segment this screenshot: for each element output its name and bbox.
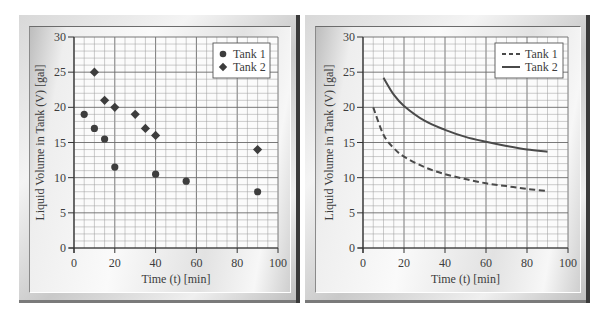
legend: Tank 1Tank 2 [213,43,270,78]
x-axis-title: Time (t) [min] [431,272,500,286]
legend-label: Tank 1 [233,47,266,61]
data-point-circle [183,178,190,185]
y-tick-label: 5 [349,206,355,220]
y-tick-label: 15 [343,136,355,150]
x-tick-label: 20 [398,256,410,270]
legend: Tank 1Tank 2 [495,43,563,78]
y-tick-label: 30 [54,30,66,44]
line-chart: 020406080100051015202530Time (t) [min]Li… [322,30,577,286]
x-tick-label: 40 [150,256,162,270]
x-tick-label: 0 [71,256,77,270]
y-tick-label: 20 [343,100,355,114]
y-tick-label: 0 [349,241,355,255]
y-tick-label: 25 [54,65,66,79]
legend-marker-circle-icon [220,51,227,58]
y-tick-label: 10 [343,171,355,185]
x-tick-label: 80 [231,256,243,270]
scatter-chart: 020406080100051015202530Time (t) [min]Li… [33,30,287,286]
x-tick-label: 20 [109,256,121,270]
x-tick-label: 80 [521,256,533,270]
y-tick-label: 10 [54,171,66,185]
x-tick-label: 0 [360,256,366,270]
y-axis-title: Liquid Volume in Tank (V) [gal] [322,64,336,220]
y-tick-label: 25 [343,65,355,79]
data-point-circle [111,164,118,171]
data-point-circle [91,125,98,132]
legend-label: Tank 1 [525,47,558,61]
legend-label: Tank 2 [233,60,266,74]
y-tick-label: 5 [60,206,66,220]
y-axis-title: Liquid Volume in Tank (V) [gal] [33,64,47,220]
x-tick-label: 40 [439,256,451,270]
x-tick-label: 100 [269,256,287,270]
y-tick-label: 30 [343,30,355,44]
legend-label: Tank 2 [525,60,558,74]
x-tick-label: 100 [559,256,577,270]
x-tick-label: 60 [480,256,492,270]
data-point-circle [152,171,159,178]
y-tick-label: 20 [54,100,66,114]
y-tick-label: 0 [60,241,66,255]
y-tick-label: 15 [54,136,66,150]
data-point-circle [101,135,108,142]
x-axis-title: Time (t) [min] [142,272,211,286]
data-point-circle [254,188,261,195]
charts-canvas: 020406080100051015202530Time (t) [min]Li… [0,0,610,314]
x-tick-label: 60 [190,256,202,270]
data-point-circle [81,111,88,118]
